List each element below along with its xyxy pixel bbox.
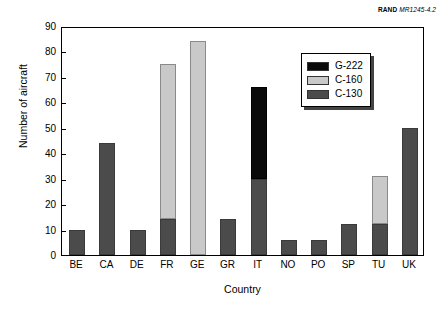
x-axis-tick-label-uk: UK (394, 259, 424, 271)
bar-segment-de-c-130[interactable] (130, 230, 146, 255)
bar-segment-it-g-222[interactable] (251, 87, 267, 179)
x-axis-labels: BECADEFRGEGRITNOPOSPTUUK (61, 259, 424, 275)
y-axis-tick-label: 60 (4, 98, 56, 108)
bar-group-sp[interactable] (341, 224, 357, 255)
bar-segment-gr-c-130[interactable] (220, 219, 236, 255)
x-axis-tick-label-no: NO (273, 259, 303, 271)
legend-swatch-c-130 (307, 90, 329, 99)
bar-segment-be-c-130[interactable] (69, 230, 85, 255)
x-axis-tick-label-ge: GE (182, 259, 212, 271)
bar-segment-no-c-130[interactable] (281, 240, 297, 255)
legend-swatch-g-222 (307, 62, 329, 71)
y-axis-title: Number of aircraft (17, 21, 29, 191)
y-axis-tick-label: 20 (4, 200, 56, 210)
x-axis-tick-label-po: PO (303, 259, 333, 271)
y-axis-tick (61, 103, 66, 104)
x-axis-tick-label-tu: TU (364, 259, 394, 271)
bar-group-no[interactable] (281, 240, 297, 255)
y-axis-tick (61, 205, 66, 206)
bar-segment-tu-c-130[interactable] (372, 224, 388, 255)
bar-group-po[interactable] (311, 240, 327, 255)
bar-group-be[interactable] (69, 230, 85, 255)
source-credit: RANDMR1245-4.2 (378, 6, 436, 13)
bar-segment-po-c-130[interactable] (311, 240, 327, 255)
y-axis-tick-label: 80 (4, 47, 56, 57)
y-axis-tick-label: 70 (4, 73, 56, 83)
y-axis-tick-label: 40 (4, 149, 56, 159)
legend-item-c-130[interactable]: C-130 (307, 87, 363, 101)
legend-label-c-130: C-130 (335, 89, 362, 99)
y-axis-tick-label: 10 (4, 226, 56, 236)
bar-group-tu[interactable] (372, 176, 388, 255)
legend-item-g-222[interactable]: G-222 (307, 59, 363, 73)
y-axis-tick-label: 90 (4, 22, 56, 32)
legend-label-g-222: G-222 (335, 61, 363, 71)
bar-segment-fr-c-130[interactable] (160, 219, 176, 255)
y-axis-tick-label: 0 (4, 251, 56, 261)
x-axis-tick-label-sp: SP (333, 259, 363, 271)
y-axis-tick-label: 50 (4, 124, 56, 134)
bar-group-fr[interactable] (160, 64, 176, 255)
bar-segment-ca-c-130[interactable] (99, 143, 115, 255)
x-axis-tick-label-be: BE (61, 259, 91, 271)
source-credit-document: MR1245-4.2 (399, 6, 436, 13)
x-axis-tick-label-de: DE (122, 259, 152, 271)
y-axis-tick-label: 30 (4, 175, 56, 185)
bar-group-ca[interactable] (99, 143, 115, 255)
y-axis-tick (61, 129, 66, 130)
y-axis-tick (61, 78, 66, 79)
bar-segment-tu-c-160[interactable] (372, 176, 388, 224)
bar-segment-fr-c-160[interactable] (160, 64, 176, 219)
y-axis-tick (61, 231, 66, 232)
x-axis-tick-label-gr: GR (212, 259, 242, 271)
bar-group-de[interactable] (130, 230, 146, 255)
bar-group-gr[interactable] (220, 219, 236, 255)
y-axis-tick (61, 52, 66, 53)
bar-segment-ge-c-160[interactable] (190, 41, 206, 255)
legend: G-222C-160C-130 (301, 53, 371, 107)
x-axis-title: Country (61, 283, 424, 295)
y-axis-tick (61, 180, 66, 181)
bar-chart: RANDMR1245-4.2 0102030405060708090 Numbe… (0, 0, 444, 313)
x-axis-tick-label-ca: CA (91, 259, 121, 271)
bar-group-ge[interactable] (190, 41, 206, 255)
x-axis-tick-label-it: IT (243, 259, 273, 271)
bar-segment-uk-c-130[interactable] (402, 128, 418, 255)
legend-label-c-160: C-160 (335, 75, 362, 85)
bar-segment-sp-c-130[interactable] (341, 224, 357, 255)
bar-segment-it-c-130[interactable] (251, 179, 267, 255)
bar-group-it[interactable] (251, 87, 267, 255)
legend-item-c-160[interactable]: C-160 (307, 73, 363, 87)
y-axis-tick (61, 154, 66, 155)
bar-group-uk[interactable] (402, 128, 418, 255)
legend-swatch-c-160 (307, 76, 329, 85)
source-credit-mark: RAND (378, 6, 397, 13)
x-axis-tick-label-fr: FR (152, 259, 182, 271)
